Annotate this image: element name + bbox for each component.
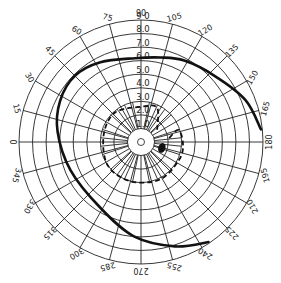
ecc-label-90: 9 0 — [136, 11, 150, 21]
angle-label-165: 165 — [259, 100, 272, 117]
minor-spoke — [102, 129, 128, 137]
spoke-135 — [151, 56, 228, 133]
angle-label-300: 300 — [68, 246, 86, 261]
angle-label-180: 180 — [265, 134, 274, 149]
ecc-label-30: 3.0 — [136, 92, 150, 102]
angle-label-210: 210 — [245, 198, 260, 216]
ecc-label-70: 7.0 — [136, 38, 150, 48]
ring-10 — [127, 128, 154, 155]
angle-label-30: 30 — [23, 71, 36, 84]
minor-spoke — [154, 146, 180, 154]
spoke-60 — [80, 36, 134, 130]
angle-label-15: 15 — [11, 103, 22, 115]
angle-label-195: 195 — [259, 167, 272, 184]
angle-label-120: 120 — [197, 23, 215, 38]
spoke-120 — [148, 36, 202, 130]
minor-spoke — [102, 146, 128, 154]
spoke-225 — [151, 152, 228, 229]
angle-label-150: 150 — [245, 69, 260, 87]
spoke-285 — [109, 155, 137, 260]
ecc-label-40: 4.0 — [136, 78, 150, 88]
angle-label-0: 0 — [8, 139, 17, 144]
ecc-label-10: 1.0 — [136, 119, 150, 129]
spoke-45 — [55, 56, 132, 133]
ecc-label-50: 5.0 — [136, 65, 150, 75]
angle-label-315: 315 — [41, 224, 58, 241]
angle-label-270: 270 — [133, 266, 148, 275]
angle-label-105: 105 — [166, 11, 183, 24]
spoke-330 — [35, 149, 129, 203]
angle-label-330: 330 — [22, 198, 37, 216]
angle-label-75: 75 — [102, 12, 114, 23]
spoke-300 — [80, 154, 134, 248]
spoke-240 — [148, 154, 202, 248]
eccentricity-labels: 1.02.03.04.05.06.07.08.09 0 — [136, 11, 150, 129]
spoke-345 — [23, 146, 128, 174]
spoke-30 — [35, 81, 129, 135]
angle-label-255: 255 — [166, 260, 183, 273]
spoke-195 — [154, 146, 259, 174]
angle-label-60: 60 — [70, 24, 83, 37]
inner-isopter-line — [103, 105, 183, 182]
angle-label-240: 240 — [197, 246, 215, 261]
spoke-15 — [23, 110, 128, 138]
ecc-label-80: 8.0 — [136, 24, 150, 34]
angle-label-135: 135 — [223, 42, 240, 59]
angle-label-285: 285 — [99, 260, 116, 273]
fixation-point — [138, 139, 145, 146]
angle-label-345: 345 — [10, 167, 23, 184]
perimetry-chart: 0153045607590105120135150165180195210225… — [0, 0, 281, 283]
spoke-165 — [154, 110, 259, 138]
